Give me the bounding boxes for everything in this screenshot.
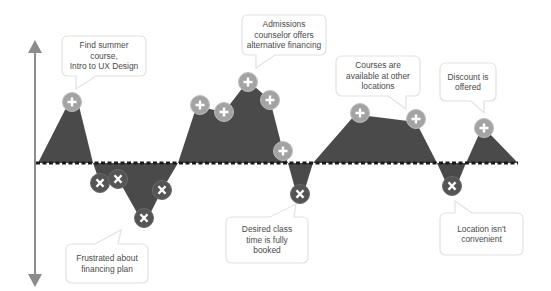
- callout-line: offered: [448, 82, 489, 93]
- callout-line: convenient: [457, 234, 506, 245]
- plus-marker[interactable]: [239, 73, 258, 92]
- callout-text-find-summer-course: Find summer course, Intro to UX Design: [62, 36, 146, 76]
- callout-text-location-inconvenient: Location isn't convenient: [440, 213, 523, 255]
- plus-marker[interactable]: [407, 110, 426, 129]
- x-marker[interactable]: [109, 170, 128, 189]
- callout-text-admissions-counselor: Admissions counselor offers alternative …: [242, 15, 326, 55]
- callout-line: counselor offers: [247, 30, 322, 41]
- callout-line: Location isn't: [457, 224, 506, 235]
- callout-line: available at other: [346, 71, 410, 82]
- plus-marker[interactable]: [215, 103, 234, 122]
- plus-marker[interactable]: [191, 96, 210, 115]
- plus-marker[interactable]: [351, 104, 370, 123]
- plus-marker[interactable]: [261, 91, 280, 110]
- callout-line: Desired class: [242, 224, 292, 235]
- callout-line: booked: [242, 245, 292, 256]
- positive-area: [38, 106, 93, 163]
- callout-line: Find summer course,: [66, 40, 142, 61]
- callout-text-courses-available: Courses are available at other locations: [336, 56, 420, 96]
- arrow-down-icon: [28, 274, 42, 287]
- callout-text-frustrated-financing: Frustrated about financing plan: [66, 244, 148, 283]
- plus-marker[interactable]: [63, 93, 82, 112]
- positive-area: [466, 132, 518, 163]
- callout-line: Admissions: [247, 19, 322, 30]
- x-marker[interactable]: [443, 177, 462, 196]
- callout-line: time is fully: [242, 235, 292, 246]
- callout-line: Discount is: [448, 72, 489, 83]
- callout-line: locations: [346, 81, 410, 92]
- x-marker[interactable]: [153, 181, 172, 200]
- x-marker[interactable]: [291, 185, 310, 204]
- callout-line: Courses are: [346, 60, 410, 71]
- callout-text-class-time-booked: Desired class time is fully booked: [226, 217, 308, 263]
- plus-marker[interactable]: [475, 119, 494, 138]
- x-marker[interactable]: [135, 209, 154, 228]
- plus-marker[interactable]: [274, 142, 293, 161]
- callout-line: alternative financing: [247, 40, 322, 51]
- callout-line: Intro to UX Design: [66, 61, 142, 72]
- callout-line: Frustrated about: [76, 253, 137, 264]
- callout-text-discount-offered: Discount is offered: [440, 63, 496, 101]
- arrow-up-icon: [28, 40, 42, 53]
- x-marker[interactable]: [91, 174, 110, 193]
- callout-line: financing plan: [76, 264, 137, 275]
